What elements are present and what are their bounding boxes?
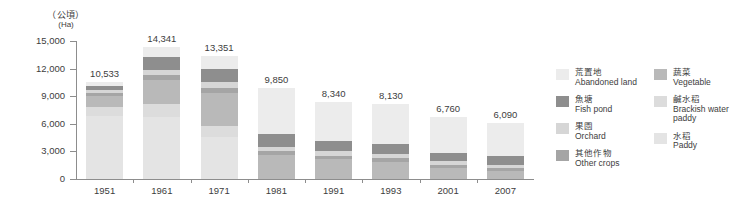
bar-segment-fish-pond[interactable] (143, 57, 180, 71)
bar-segment-paddy[interactable] (143, 117, 180, 179)
stacked-bar[interactable] (201, 56, 238, 179)
bar-group[interactable]: 8,3401991 (315, 41, 352, 179)
stacked-bar[interactable] (86, 82, 123, 179)
bar-segment-fish-pond[interactable] (372, 144, 409, 154)
unit-label-en: (Ha) (30, 20, 102, 29)
bar-segment-vegetable[interactable] (372, 162, 409, 179)
legend-item[interactable]: 水稻Paddy (654, 132, 752, 151)
y-axis-tick-label: 9,000 (41, 90, 65, 101)
bar-segment-brackish-water-paddy[interactable] (143, 104, 180, 118)
bar-group[interactable]: 8,1301993 (372, 41, 409, 179)
x-axis-label: 1981 (266, 185, 287, 196)
bar-segment-vegetable[interactable] (201, 93, 238, 125)
x-axis-label: 1971 (209, 185, 230, 196)
plot-area: 15,00012,0009,0006,0003,0000 10,53319511… (76, 41, 534, 179)
legend-swatch-icon (654, 133, 667, 144)
x-axis-tick (191, 179, 192, 183)
y-axis-line (76, 41, 77, 179)
y-axis-tick: 6,000 (70, 124, 76, 125)
legend-swatch-icon (556, 69, 569, 80)
legend-text: 魚塘Fish pond (575, 95, 612, 114)
bar-value-label: 6,090 (493, 109, 517, 120)
stacked-bar[interactable] (487, 123, 524, 179)
y-axis-tick: 15,000 (70, 41, 76, 42)
x-axis-label: 1991 (323, 185, 344, 196)
bar-group[interactable]: 10,5331951 (86, 41, 123, 179)
legend-label-en: Orchard (575, 132, 606, 142)
x-axis-tick (477, 179, 478, 183)
stacked-bar[interactable] (315, 102, 352, 179)
stacked-bar[interactable] (372, 104, 409, 179)
x-axis-label: 2007 (495, 185, 516, 196)
unit-caption: （公頃） (Ha) (30, 10, 102, 30)
bar-segment-vegetable[interactable] (143, 80, 180, 104)
legend-swatch-icon (556, 96, 569, 107)
bar-value-label: 9,850 (264, 74, 288, 85)
bar-value-label: 14,341 (147, 33, 176, 44)
bar-group[interactable]: 9,8501981 (258, 41, 295, 179)
bar-value-label: 13,351 (205, 42, 234, 53)
y-axis-tick-label: 3,000 (41, 145, 65, 156)
legend-column-right: 蔬菜Vegetable鹹水稻Brackish water paddy水稻Padd… (654, 68, 752, 159)
legend-swatch-icon (654, 69, 667, 80)
bar-segment-brackish-water-paddy[interactable] (86, 107, 123, 115)
x-axis-label: 2001 (438, 185, 459, 196)
legend-item[interactable]: 鹹水稻Brackish water paddy (654, 95, 752, 124)
bar-group[interactable]: 14,3411961 (143, 41, 180, 179)
legend-item[interactable]: 荒置地Abandoned land (556, 68, 652, 87)
bar-segment-abandoned-land[interactable] (430, 117, 467, 153)
bar-value-label: 8,340 (322, 88, 346, 99)
x-axis-tick (305, 179, 306, 183)
y-axis-tick: 0 (70, 179, 76, 180)
x-axis-tick (420, 179, 421, 183)
stacked-bar[interactable] (258, 88, 295, 179)
bar-segment-fish-pond[interactable] (258, 134, 295, 146)
legend-text: 水稻Paddy (673, 132, 697, 151)
bar-segment-brackish-water-paddy[interactable] (201, 126, 238, 137)
bar-segment-paddy[interactable] (201, 137, 238, 179)
unit-label-cn: （公頃） (30, 10, 102, 20)
bar-segment-vegetable[interactable] (315, 159, 352, 179)
bar-segment-fish-pond[interactable] (487, 156, 524, 165)
x-axis-label: 1951 (94, 185, 115, 196)
bar-segment-vegetable[interactable] (86, 96, 123, 107)
bar-value-label: 6,760 (436, 103, 460, 114)
legend-label-en: Paddy (673, 141, 697, 151)
bar-segment-fish-pond[interactable] (430, 153, 467, 161)
legend-label-en: Other crops (575, 159, 619, 169)
bar-group[interactable]: 6,0902007 (487, 41, 524, 179)
legend-swatch-icon (556, 123, 569, 134)
legend-column-left: 荒置地Abandoned land魚塘Fish pond果園Orchard其他作… (556, 68, 652, 176)
y-axis-tick-label: 0 (60, 173, 65, 184)
bar-group[interactable]: 6,7602001 (430, 41, 467, 179)
bar-segment-paddy[interactable] (86, 116, 123, 179)
bar-segment-abandoned-land[interactable] (201, 56, 238, 68)
legend-text: 鹹水稻Brackish water paddy (673, 95, 752, 124)
y-axis-tick-label: 12,000 (36, 63, 65, 74)
bar-segment-abandoned-land[interactable] (315, 102, 352, 141)
bar-segment-fish-pond[interactable] (201, 69, 238, 82)
bar-segment-fish-pond[interactable] (315, 141, 352, 151)
legend-swatch-icon (556, 150, 569, 161)
stacked-bar[interactable] (430, 117, 467, 179)
legend-item[interactable]: 蔬菜Vegetable (654, 68, 752, 87)
legend-label-en: Vegetable (673, 78, 711, 88)
bar-segment-vegetable[interactable] (258, 155, 295, 179)
bar-segment-vegetable[interactable] (487, 171, 524, 179)
bar-segment-abandoned-land[interactable] (258, 88, 295, 134)
stacked-bar[interactable] (143, 47, 180, 179)
x-axis-tick (248, 179, 249, 183)
bar-group[interactable]: 13,3511971 (201, 41, 238, 179)
bar-segment-abandoned-land[interactable] (372, 104, 409, 144)
y-axis-tick: 12,000 (70, 69, 76, 70)
bar-segment-abandoned-land[interactable] (143, 47, 180, 57)
x-axis-tick (133, 179, 134, 183)
legend-item[interactable]: 其他作物Other crops (556, 149, 652, 168)
chart-root: （公頃） (Ha) 15,00012,0009,0006,0003,0000 1… (0, 0, 752, 210)
legend-item[interactable]: 魚塘Fish pond (556, 95, 652, 114)
legend-label-en: Brackish water paddy (673, 105, 752, 124)
legend-item[interactable]: 果園Orchard (556, 122, 652, 141)
bar-segment-abandoned-land[interactable] (487, 123, 524, 156)
x-axis-label: 1961 (151, 185, 172, 196)
bar-segment-vegetable[interactable] (430, 168, 467, 180)
